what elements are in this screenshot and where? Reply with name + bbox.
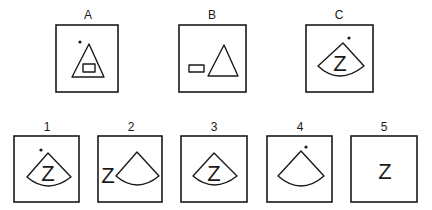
letter-z: Z: [101, 163, 114, 188]
dot-icon: [39, 148, 42, 151]
option-label-2: 2: [128, 120, 135, 134]
rectangle-shape: [189, 65, 204, 72]
stimulus-panel-b: B: [179, 8, 246, 92]
panel-label-a: A: [84, 8, 92, 22]
option-label-3: 3: [211, 120, 218, 134]
analogy-diagram: A B C Z 1 Z 2 Z 3 Z: [0, 0, 432, 210]
letter-z: Z: [378, 159, 391, 184]
option-panel-4[interactable]: 4: [267, 120, 332, 202]
option-panel-5[interactable]: 5 Z: [351, 120, 417, 202]
letter-z: Z: [333, 51, 346, 76]
option-label-4: 4: [297, 120, 304, 134]
option-panel-1[interactable]: 1 Z: [14, 120, 79, 202]
rectangle-shape: [83, 64, 95, 72]
triangle-shape: [208, 45, 238, 76]
stimulus-panel-c: C Z: [306, 8, 373, 92]
panel-label-b: B: [208, 8, 216, 22]
option-panel-2[interactable]: 2 Z: [98, 120, 162, 202]
panel-frame: [179, 25, 246, 92]
dot-icon: [304, 145, 307, 148]
option-label-1: 1: [44, 120, 51, 134]
letter-z: Z: [41, 161, 54, 186]
dot-icon: [78, 40, 81, 43]
fan-sector-shape: [278, 151, 324, 186]
panel-frame: [56, 25, 118, 92]
option-label-5: 5: [381, 120, 388, 134]
dot-icon: [347, 36, 350, 39]
option-panel-3[interactable]: 3 Z: [181, 120, 247, 202]
stimulus-panel-a: A: [56, 8, 118, 92]
fan-sector-shape: [116, 152, 159, 185]
panel-frame: [267, 136, 332, 202]
letter-z: Z: [207, 161, 220, 186]
panel-label-c: C: [335, 8, 344, 22]
